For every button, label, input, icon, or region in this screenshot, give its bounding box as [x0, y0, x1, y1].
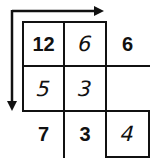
- cell-r3-c1: 7: [24, 112, 63, 156]
- cell-r3-c2: 3: [65, 112, 105, 156]
- cell-r2-c2: 3: [63, 67, 106, 110]
- cell-r2-c1: 5: [22, 67, 64, 110]
- cell-r1-c1: 12: [24, 23, 63, 65]
- cell-r1-c2: 6: [64, 23, 107, 65]
- cell-r3-c3: 4: [105, 112, 149, 156]
- small-box-bottom-border: [105, 156, 150, 158]
- cell-r1-c3: 6: [107, 23, 148, 65]
- right-arrow-icon: [12, 6, 104, 16]
- down-arrow-icon: [7, 10, 17, 111]
- cell-r2-c3: [107, 67, 148, 110]
